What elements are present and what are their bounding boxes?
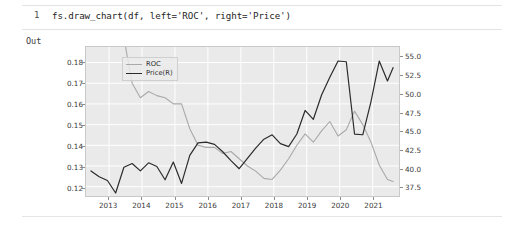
legend-swatch-price	[126, 73, 142, 74]
y-axis-right-tick-label: 50.0	[405, 90, 421, 99]
cell-divider-bottom	[22, 29, 502, 30]
cell-divider-top	[22, 5, 502, 6]
x-axis-tick-label: 2015	[161, 201, 189, 210]
y-axis-right-tick-label: 55.0	[405, 52, 421, 61]
x-axis-tick	[208, 197, 209, 200]
x-axis-tick	[108, 197, 109, 200]
x-axis-tick-label: 2019	[293, 201, 321, 210]
y-axis-right-tick	[400, 56, 403, 57]
output-label: Out	[26, 36, 41, 46]
y-axis-left-tick-label: 0.18	[67, 58, 83, 67]
y-axis-right-tick	[400, 187, 403, 188]
y-axis-right-tick-label: 47.5	[405, 109, 421, 118]
y-axis-left-tick	[82, 83, 85, 84]
x-axis-tick	[274, 197, 275, 200]
x-axis-tick-label: 2013	[94, 201, 122, 210]
y-axis-left-tick	[82, 146, 85, 147]
y-axis-left-tick-label: 0.17	[67, 79, 83, 88]
y-axis-right-tick-label: 45.0	[405, 127, 421, 136]
code-input[interactable]: fs.draw_chart(df, left='ROC', right='Pri…	[52, 10, 291, 21]
x-axis-tick	[241, 197, 242, 200]
y-axis-left-tick	[82, 125, 85, 126]
y-axis-right-tick-label: 42.5	[405, 146, 421, 155]
y-axis-right-tick	[400, 75, 403, 76]
x-axis-tick-label: 2014	[127, 201, 155, 210]
x-axis-tick	[373, 197, 374, 200]
legend-label-price: Price(R)	[146, 69, 173, 78]
y-axis-left-tick	[82, 62, 85, 63]
chart-figure: ROC Price(R) 0.180.170.160.150.140.130.1…	[55, 40, 455, 212]
y-axis-right-tick	[400, 150, 403, 151]
y-axis-left-tick	[82, 167, 85, 168]
x-axis-tick	[307, 197, 308, 200]
y-axis-left-tick	[82, 104, 85, 105]
legend-entry-price: Price(R)	[126, 69, 173, 78]
y-axis-right-tick-label: 40.0	[405, 165, 421, 174]
y-axis-left-tick-label: 0.14	[67, 142, 83, 151]
x-axis-tick-label: 2020	[326, 201, 354, 210]
x-axis-tick	[141, 197, 142, 200]
y-axis-left-tick	[82, 188, 85, 189]
y-axis-right-tick	[400, 131, 403, 132]
x-axis-tick	[175, 197, 176, 200]
cell-prompt-number: 1	[34, 10, 39, 20]
x-axis-tick	[340, 197, 341, 200]
y-axis-right-tick	[400, 113, 403, 114]
y-axis-right-tick	[400, 94, 403, 95]
y-axis-right-tick	[400, 169, 403, 170]
legend-label-roc: ROC	[146, 60, 161, 69]
y-axis-left-tick-label: 0.16	[67, 100, 83, 109]
x-axis-tick-label: 2017	[227, 201, 255, 210]
legend-swatch-roc	[126, 64, 142, 65]
y-axis-right-tick-label: 37.5	[405, 183, 421, 192]
y-axis-right-tick-label: 52.5	[405, 71, 421, 80]
x-axis-tick-label: 2021	[359, 201, 387, 210]
cell-divider-footer	[22, 216, 502, 217]
y-axis-left-tick-label: 0.13	[67, 163, 83, 172]
y-axis-left-tick-label: 0.15	[67, 121, 83, 130]
x-axis-tick-label: 2018	[260, 201, 288, 210]
legend-entry-roc: ROC	[126, 60, 173, 69]
x-axis-tick-label: 2016	[194, 201, 222, 210]
plot-area: ROC Price(R)	[85, 46, 400, 197]
chart-legend: ROC Price(R)	[122, 57, 178, 81]
y-axis-left-tick-label: 0.12	[67, 184, 83, 193]
